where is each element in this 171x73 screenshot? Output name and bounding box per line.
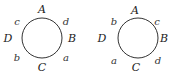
point-label-A-1: A — [37, 3, 46, 16]
circle-1 — [22, 18, 62, 58]
point-label-D-2: D — [97, 32, 107, 45]
point-label-B-2: B — [159, 32, 168, 45]
arc-label-b-2: b — [111, 16, 117, 27]
circle-diagram-2: A B C D b c a d — [97, 4, 168, 73]
point-label-C-1: C — [38, 61, 47, 73]
arc-label-a-1: a — [63, 52, 69, 63]
arc-label-d-1: d — [63, 16, 69, 27]
arc-label-d-2: d — [155, 55, 161, 66]
point-label-C-2: C — [132, 61, 141, 73]
point-label-A-2: A — [130, 4, 139, 17]
circle-2 — [118, 18, 158, 58]
circle-diagram-1: A B C D c d b a — [3, 3, 76, 73]
arc-label-c-1: c — [14, 16, 20, 27]
arc-label-b-1: b — [14, 52, 20, 63]
arc-label-a-2: a — [111, 55, 117, 66]
point-label-B-1: B — [67, 32, 76, 45]
point-label-D-1: D — [3, 32, 13, 45]
arc-label-c-2: c — [154, 16, 160, 27]
diagram-canvas: A B C D c d b a A B C D b c a d — [0, 0, 171, 73]
